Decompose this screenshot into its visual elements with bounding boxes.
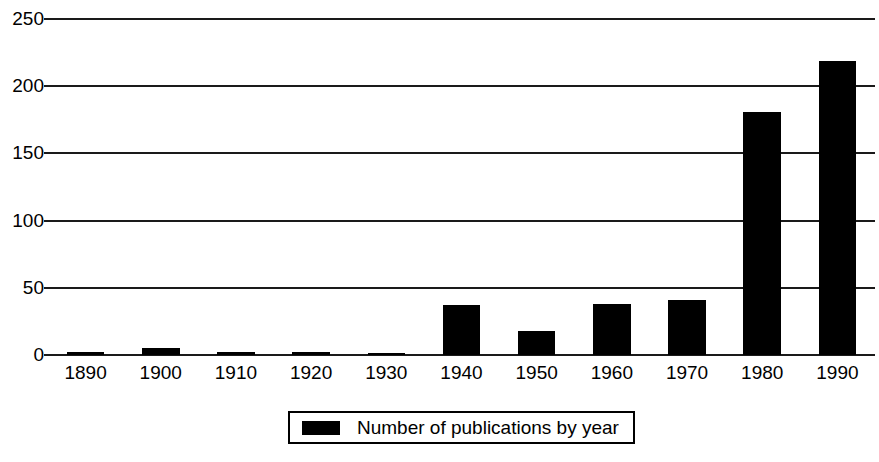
bar-slot — [198, 19, 273, 355]
bar-slot — [574, 19, 649, 355]
bar[interactable] — [743, 112, 781, 355]
bar-slot — [800, 19, 875, 355]
y-tick-label: 150 — [2, 143, 44, 162]
x-tick-label: 1980 — [725, 362, 800, 384]
bar[interactable] — [668, 300, 706, 355]
bar[interactable] — [217, 352, 255, 355]
bar-slot — [499, 19, 574, 355]
y-tick-label: 200 — [2, 76, 44, 95]
y-tick-label: 100 — [2, 211, 44, 230]
bar-slot — [725, 19, 800, 355]
y-axis: 050100150200250 — [0, 19, 44, 355]
x-tick-label: 1920 — [274, 362, 349, 384]
x-axis: 1890190019101920193019401950196019701980… — [48, 362, 875, 390]
bar[interactable] — [593, 304, 631, 355]
y-tick-label: 50 — [2, 278, 44, 297]
x-tick-label: 1950 — [499, 362, 574, 384]
bar-slot — [649, 19, 724, 355]
x-tick-label: 1900 — [123, 362, 198, 384]
legend-swatch-icon — [302, 421, 340, 435]
x-tick-label: 1990 — [800, 362, 875, 384]
bar-slot — [274, 19, 349, 355]
x-tick-label: 1930 — [349, 362, 424, 384]
x-tick-label: 1940 — [424, 362, 499, 384]
x-tick-label: 1970 — [649, 362, 724, 384]
x-tick-label: 1890 — [48, 362, 123, 384]
bar-slot — [424, 19, 499, 355]
y-tick-label: 250 — [2, 9, 44, 28]
bar[interactable] — [819, 61, 857, 355]
x-tick-label: 1910 — [198, 362, 273, 384]
bar[interactable] — [292, 352, 330, 355]
bar[interactable] — [443, 305, 481, 355]
bar[interactable] — [142, 348, 180, 355]
bar[interactable] — [518, 331, 556, 355]
chart-page: 050100150200250 189019001910192019301940… — [0, 0, 879, 462]
plot-area — [48, 19, 875, 355]
legend-label: Number of publications by year — [357, 418, 619, 437]
bar-slot — [123, 19, 198, 355]
bar[interactable] — [368, 353, 406, 355]
bar-slot — [48, 19, 123, 355]
y-tick-label: 0 — [2, 345, 44, 364]
chart-legend: Number of publications by year — [288, 411, 635, 444]
bar[interactable] — [67, 352, 105, 355]
bar-slot — [349, 19, 424, 355]
x-tick-label: 1960 — [574, 362, 649, 384]
